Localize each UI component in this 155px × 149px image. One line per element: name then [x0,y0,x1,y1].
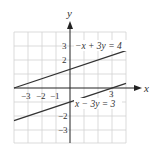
y-tick-neg3: −3 [58,125,68,135]
line2-equation-label: x − 3y = 3 [74,99,116,109]
y-tick-3: 3 [62,41,67,51]
coordinate-graph: x y −3 −2 −1 3 3 2 −2 −3 −x + 3y = 4 x −… [0,0,155,149]
x-axis-label: x [143,82,149,94]
x-tick-3: 3 [109,89,114,99]
x-axis-arrow-icon [134,85,142,91]
y-tick-neg2: −2 [58,111,68,121]
y-axis-label: y [66,7,72,19]
line1-equation-label: −x + 3y = 4 [75,41,122,51]
y-axis-arrow-icon [67,21,73,29]
x-tick-neg1: −1 [50,91,60,101]
x-tick-neg2: −2 [36,91,46,101]
y-tick-2: 2 [62,55,67,65]
x-tick-neg3: −3 [21,91,31,101]
